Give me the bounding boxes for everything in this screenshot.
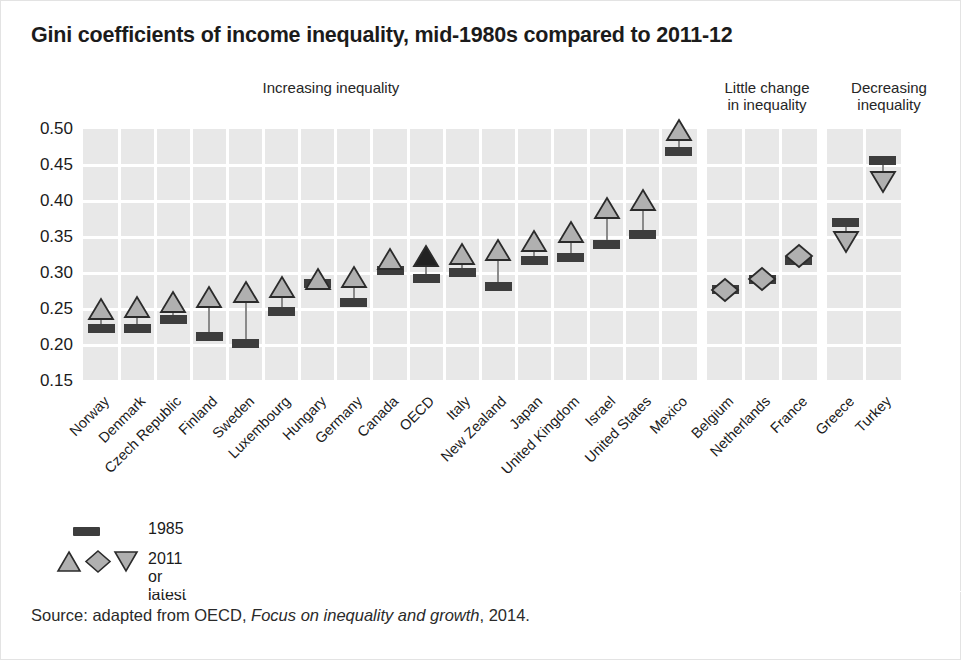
vertical-gridline bbox=[863, 129, 866, 381]
marker-2011-triangle-up bbox=[592, 195, 622, 221]
y-axis-tick-label: 0.35 bbox=[21, 227, 73, 247]
marker-1985-bar bbox=[593, 240, 620, 249]
marker-1985-bar bbox=[413, 274, 440, 283]
marker-2011-triangle-up bbox=[375, 246, 405, 272]
vertical-gridline bbox=[334, 129, 337, 381]
vertical-gridline bbox=[659, 129, 662, 381]
marker-1985-bar bbox=[485, 282, 512, 291]
vertical-gridline bbox=[262, 129, 265, 381]
marker-2011-triangle-up bbox=[158, 289, 188, 315]
marker-2011-diamond bbox=[747, 266, 777, 292]
source-note: Source: adapted from OECD, Focus on ineq… bbox=[31, 606, 530, 625]
marker-1985-bar bbox=[340, 298, 367, 307]
source-prefix: Source: adapted from OECD, bbox=[31, 606, 251, 624]
x-axis-label-netherlands: Netherlands bbox=[628, 393, 774, 539]
marker-1985-bar bbox=[557, 253, 584, 262]
vertical-gridline bbox=[623, 129, 626, 381]
vertical-gridline bbox=[154, 129, 157, 381]
marker-2011-triangle-up bbox=[267, 274, 297, 300]
marker-2011-diamond bbox=[784, 243, 814, 269]
marker-1985-bar bbox=[160, 315, 187, 324]
marker-2011-triangle-up bbox=[628, 187, 658, 213]
marker-2011-triangle-up bbox=[194, 284, 224, 310]
legend-bar-icon bbox=[73, 527, 100, 536]
marker-2011-triangle-up bbox=[122, 294, 152, 320]
y-axis-tick-label: 0.25 bbox=[21, 299, 73, 319]
plot-area: 0.500.450.400.350.300.250.200.15 NorwayD… bbox=[1, 1, 961, 660]
marker-2011-triangle-down bbox=[868, 169, 898, 195]
marker-1985-bar bbox=[869, 156, 896, 165]
y-axis-tick-label: 0.45 bbox=[21, 155, 73, 175]
vertical-gridline bbox=[515, 129, 518, 381]
legend-label-1985: 1985 bbox=[148, 520, 184, 538]
marker-2011-diamond bbox=[710, 277, 740, 303]
marker-2011-triangle-up bbox=[556, 219, 586, 245]
legend-label-2011: 2011 or latest bbox=[148, 550, 186, 604]
marker-1985-bar bbox=[88, 324, 115, 333]
marker-2011-triangle-up bbox=[447, 241, 477, 267]
marker-1985-bar bbox=[665, 147, 692, 156]
y-axis-tick-label: 0.40 bbox=[21, 191, 73, 211]
marker-1985-bar bbox=[449, 268, 476, 277]
marker-1985-bar bbox=[521, 256, 548, 265]
marker-2011-triangle-up bbox=[303, 266, 333, 292]
vertical-gridline bbox=[742, 129, 745, 381]
vertical-gridline bbox=[443, 129, 446, 381]
source-divider bbox=[1, 591, 961, 592]
marker-1985-bar bbox=[832, 218, 859, 227]
marker-2011-triangle-up bbox=[411, 243, 441, 269]
marker-1985-bar bbox=[124, 324, 151, 333]
vertical-gridline bbox=[190, 129, 193, 381]
marker-1985-bar bbox=[196, 332, 223, 341]
marker-1985-bar bbox=[232, 339, 259, 348]
source-title: Focus on inequality and growth bbox=[251, 606, 479, 624]
vertical-gridline bbox=[407, 129, 410, 381]
marker-2011-triangle-down bbox=[831, 229, 861, 255]
chart-page: Gini coefficients of income inequality, … bbox=[0, 0, 961, 660]
vertical-gridline bbox=[479, 129, 482, 381]
marker-2011-triangle-up bbox=[86, 296, 116, 322]
marker-2011-triangle-up bbox=[231, 279, 261, 305]
vertical-gridline bbox=[226, 129, 229, 381]
marker-2011-triangle-up bbox=[664, 117, 694, 143]
vertical-gridline bbox=[370, 129, 373, 381]
vertical-gridline bbox=[779, 129, 782, 381]
y-axis-tick-label: 0.30 bbox=[21, 263, 73, 283]
marker-2011-triangle-up bbox=[519, 228, 549, 254]
y-axis-tick-label: 0.50 bbox=[21, 119, 73, 139]
vertical-gridline bbox=[587, 129, 590, 381]
y-axis-tick-label: 0.15 bbox=[21, 371, 73, 391]
marker-1985-bar bbox=[629, 230, 656, 239]
marker-2011-triangle-up bbox=[339, 264, 369, 290]
vertical-gridline bbox=[298, 129, 301, 381]
vertical-gridline bbox=[551, 129, 554, 381]
vertical-gridline bbox=[118, 129, 121, 381]
x-axis-label-turkey: Turkey bbox=[748, 393, 894, 539]
legend-shapes-icon bbox=[56, 548, 142, 578]
marker-1985-bar bbox=[268, 307, 295, 316]
source-suffix: , 2014. bbox=[480, 606, 530, 624]
y-axis-tick-label: 0.20 bbox=[21, 335, 73, 355]
marker-2011-triangle-up bbox=[483, 237, 513, 263]
